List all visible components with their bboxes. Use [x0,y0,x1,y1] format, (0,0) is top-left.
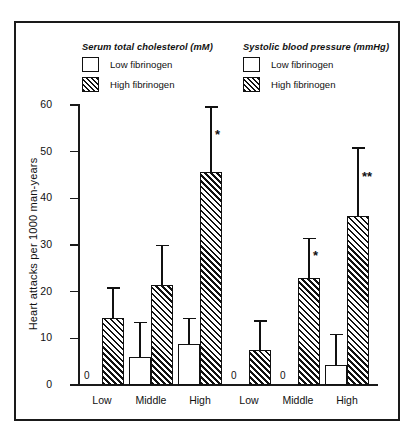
y-axis-tick [70,291,78,293]
figure-canvas: Serum total cholesterol (mM) Low fibrino… [0,0,415,441]
y-axis-tick-label: 50 [0,145,52,157]
y-axis-tick [70,198,78,200]
y-axis-tick [70,338,78,340]
y-axis-line [78,104,80,386]
bar [129,357,151,385]
significance-marker: ** [362,170,372,183]
error-bar-cap [303,238,316,240]
y-axis-tick-label: 60 [0,98,52,110]
error-bar-stem [210,106,212,172]
y-axis-tick-label: 0 [0,378,52,390]
error-bar-cap [156,245,169,247]
error-bar-stem [188,318,190,344]
y-axis-tick-label: 20 [0,285,52,297]
error-bar-stem [139,322,141,358]
bar [200,172,222,385]
error-bar-cap [183,318,196,320]
error-bar-stem [335,334,337,365]
bar [178,344,200,385]
y-axis-tick [70,151,78,153]
error-bar-cap [352,147,365,149]
bar [347,216,369,385]
error-bar-stem [357,147,359,216]
x-axis-tick-label: High [317,394,377,406]
error-bar-cap [107,287,120,289]
y-axis-tick-label: 10 [0,331,52,343]
error-bar-stem [259,320,261,349]
zero-value-label: 0 [231,370,237,381]
bar [249,350,271,385]
bar [102,318,124,385]
error-bar-cap [330,334,343,336]
bar [298,278,320,385]
error-bar-stem [161,245,163,285]
y-axis-tick-label: 40 [0,191,52,203]
bar [151,285,173,385]
error-bar-cap [205,106,218,108]
y-axis-tick [70,104,78,106]
y-axis-tick [70,244,78,246]
error-bar-stem [112,287,114,318]
significance-marker: * [215,128,220,141]
plot-area: Heart attacks per 1000 man-years 0102030… [0,0,415,441]
error-bar-cap [134,322,147,324]
bar [325,365,347,385]
y-axis-tick-label: 30 [0,238,52,250]
zero-value-label: 0 [280,370,286,381]
zero-value-label: 0 [84,370,90,381]
y-axis-tick [70,384,78,386]
significance-marker: * [313,249,318,262]
error-bar-stem [308,238,310,279]
error-bar-cap [254,320,267,322]
